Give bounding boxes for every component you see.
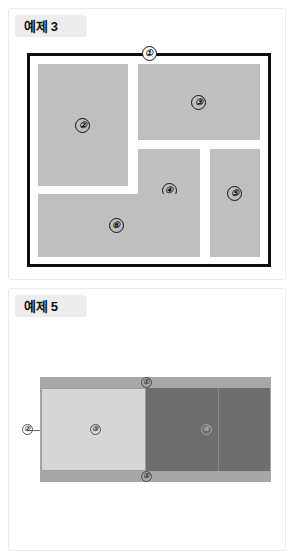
panel-example-3: 예제 3 ② ③ ④ ⑤ ⑥: [8, 8, 286, 280]
callout-mark-2: ②: [75, 118, 90, 133]
panel-header-example-3: 예제 3: [15, 15, 87, 37]
diagram-block-5: ⑤: [210, 149, 260, 257]
diagram-two-tone-band: ① ② ③ ④ ⑤: [40, 377, 271, 482]
diagram-block-group: ② ③ ④ ⑤ ⑥: [30, 56, 268, 264]
diagram-seam-line: [218, 388, 219, 471]
panel-example-5: 예제 5 ① ② ③ ④ ⑤: [8, 288, 286, 551]
callout-mark-1: ①: [142, 46, 157, 61]
callout-mark-5: ⑤: [227, 186, 242, 201]
callout-mark-3: ③: [191, 95, 206, 110]
callout-mark-bottom: ⑤: [141, 471, 152, 482]
diagram-block-2: ②: [38, 64, 127, 186]
callout-mark-right-panel: ④: [201, 424, 212, 435]
callout-mark-top: ①: [141, 377, 152, 388]
document-page: 예제 3 ② ③ ④ ⑤ ⑥: [0, 0, 294, 559]
panel-title-example-5: 예제 5: [24, 300, 58, 313]
panel-title-example-3: 예제 3: [24, 20, 58, 33]
callout-mark-6: ⑥: [109, 218, 124, 233]
diagram-partitioned-square: ② ③ ④ ⑤ ⑥ ①: [27, 53, 271, 267]
diagram-block-6: ⑥: [38, 194, 200, 256]
panel-header-example-5: 예제 5: [15, 295, 87, 317]
callout-mark-left-panel: ③: [90, 424, 101, 435]
diagram-block-3: ③: [138, 64, 259, 140]
callout-mark-left: ②: [22, 424, 33, 435]
